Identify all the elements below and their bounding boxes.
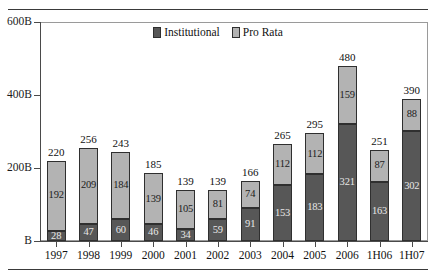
- bar-group[interactable]: 321159480: [338, 66, 357, 241]
- bar-segment-institutional[interactable]: 302: [402, 131, 421, 241]
- bar-value-pro-rata: 139: [146, 194, 161, 205]
- bar-segment-institutional[interactable]: 28: [47, 231, 66, 241]
- bar-group[interactable]: 60184243: [111, 152, 130, 241]
- bar-total-label: 480: [339, 52, 356, 63]
- bar-total-label: 256: [80, 134, 97, 145]
- bar-value-pro-rata: 87: [374, 160, 384, 171]
- x-tick-mark: [89, 241, 90, 247]
- bar-total-label: 139: [177, 176, 194, 187]
- bottom-rule: [8, 269, 428, 270]
- bar-group[interactable]: 16387251: [370, 150, 389, 241]
- x-tick-label: 2003: [239, 250, 262, 262]
- bar-total-label: 185: [145, 159, 162, 170]
- bar-segment-pro-rata[interactable]: 105: [176, 190, 195, 228]
- bar-total-label: 251: [371, 136, 388, 147]
- bar-value-pro-rata: 81: [213, 199, 223, 210]
- bar-total-label: 220: [48, 147, 65, 158]
- bar-group[interactable]: 9174166: [241, 181, 260, 241]
- y-tick-label: 400B: [0, 89, 32, 101]
- bar-value-pro-rata: 112: [275, 159, 290, 170]
- x-tick-mark: [283, 241, 284, 247]
- bar-value-institutional: 91: [245, 219, 255, 230]
- x-tick-label: 1H07: [399, 250, 425, 262]
- bar-group[interactable]: 5981139: [208, 190, 227, 241]
- x-tick-label: 2002: [206, 250, 229, 262]
- bar-group[interactable]: 153112265: [273, 144, 292, 241]
- bar-value-pro-rata: 184: [113, 180, 128, 191]
- bar-value-institutional: 321: [340, 177, 355, 188]
- bar-segment-pro-rata[interactable]: 81: [208, 190, 227, 220]
- bar-value-pro-rata: 192: [49, 190, 64, 201]
- x-tick-mark: [218, 241, 219, 247]
- y-tick-label: B: [0, 235, 32, 247]
- x-tick-mark: [315, 241, 316, 247]
- bar-total-label: 166: [242, 167, 259, 178]
- bar-segment-institutional[interactable]: 183: [305, 174, 324, 241]
- bar-segment-pro-rata[interactable]: 74: [241, 181, 260, 208]
- x-tick-mark: [347, 241, 348, 247]
- x-tick-mark: [121, 241, 122, 247]
- x-tick-label: 1997: [45, 250, 68, 262]
- x-tick-label: 2004: [271, 250, 294, 262]
- bar-segment-pro-rata[interactable]: 112: [273, 144, 292, 185]
- x-tick-mark: [56, 241, 57, 247]
- bar-total-label: 390: [404, 85, 421, 96]
- x-tick-label: 1999: [109, 250, 132, 262]
- bar-total-label: 295: [307, 119, 324, 130]
- bar-segment-institutional[interactable]: 153: [273, 185, 292, 241]
- bar-group[interactable]: 47209256: [79, 148, 98, 241]
- bar-group[interactable]: 34105139: [176, 190, 195, 241]
- bar-value-pro-rata: 88: [407, 109, 417, 120]
- bar-value-pro-rata: 74: [245, 189, 255, 200]
- bar-segment-institutional[interactable]: 321: [338, 124, 357, 241]
- bar-segment-institutional[interactable]: 91: [241, 208, 260, 241]
- bar-value-institutional: 34: [180, 230, 190, 241]
- bars-layer: 2819222047209256601842434613918534105139…: [40, 22, 428, 241]
- bar-total-label: 139: [210, 176, 227, 187]
- x-axis-line: [40, 241, 428, 242]
- x-tick-mark: [380, 241, 381, 247]
- x-tick-mark: [412, 241, 413, 247]
- x-tick-label: 2000: [142, 250, 165, 262]
- bar-segment-pro-rata[interactable]: 112: [305, 133, 324, 174]
- bar-segment-institutional[interactable]: 59: [208, 219, 227, 241]
- bar-value-pro-rata: 159: [340, 90, 355, 101]
- y-tick-label: 600B: [0, 16, 32, 28]
- x-tick-mark: [153, 241, 154, 247]
- bar-segment-pro-rata[interactable]: 159: [338, 66, 357, 124]
- bar-segment-pro-rata[interactable]: 192: [47, 161, 66, 231]
- bar-value-institutional: 153: [275, 208, 290, 219]
- bar-total-label: 265: [274, 130, 291, 141]
- bar-segment-pro-rata[interactable]: 184: [111, 152, 130, 219]
- bar-segment-institutional[interactable]: 47: [79, 224, 98, 241]
- bar-group[interactable]: 28192220: [47, 161, 66, 241]
- bar-segment-pro-rata[interactable]: 88: [402, 99, 421, 131]
- bar-segment-institutional[interactable]: 60: [111, 219, 130, 241]
- bar-value-institutional: 59: [213, 225, 223, 236]
- bar-value-institutional: 28: [51, 231, 61, 241]
- bar-group[interactable]: 46139185: [144, 173, 163, 241]
- bar-segment-institutional[interactable]: 163: [370, 182, 389, 241]
- y-tick-mark: [34, 241, 40, 242]
- bar-segment-institutional[interactable]: 34: [176, 229, 195, 241]
- bar-group[interactable]: 30288390: [402, 99, 421, 241]
- bar-value-pro-rata: 105: [178, 204, 193, 215]
- x-tick-mark: [250, 241, 251, 247]
- bar-group[interactable]: 183112295: [305, 133, 324, 241]
- bar-segment-institutional[interactable]: 46: [144, 224, 163, 241]
- x-tick-label: 1998: [77, 250, 100, 262]
- x-tick-label: 1H06: [367, 250, 393, 262]
- chart-figure: B200B400B600B 28192220472092566018424346…: [0, 0, 436, 278]
- top-rule: [8, 9, 428, 10]
- bar-segment-pro-rata[interactable]: 209: [79, 148, 98, 224]
- x-tick-mark: [186, 241, 187, 247]
- bar-value-institutional: 47: [83, 227, 93, 238]
- bar-segment-pro-rata[interactable]: 87: [370, 150, 389, 182]
- bar-value-institutional: 46: [148, 227, 158, 238]
- bar-value-institutional: 163: [372, 206, 387, 217]
- bar-value-institutional: 60: [116, 225, 126, 236]
- x-tick-label: 2005: [303, 250, 326, 262]
- bar-value-institutional: 302: [404, 181, 419, 192]
- y-tick-label: 200B: [0, 162, 32, 174]
- bar-segment-pro-rata[interactable]: 139: [144, 173, 163, 224]
